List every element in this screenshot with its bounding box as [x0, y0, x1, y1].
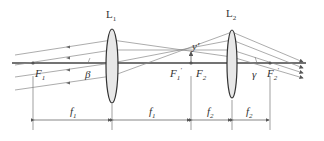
dimension-label-f1-a: f1 [70, 106, 77, 120]
lens-l1 [106, 29, 118, 103]
dimension-label-f1-b: f1 [149, 106, 156, 120]
gamma-label: γ [252, 69, 256, 80]
lens-l1-label: L1 [106, 9, 116, 23]
beta-arc [88, 58, 90, 63]
lens-l2 [227, 30, 237, 98]
f2-point-label: F2 [196, 68, 206, 82]
f2-prime-label: F2′ [267, 67, 279, 82]
f1-point-label: F1 [35, 68, 45, 82]
dimension-label-f2-a: f2 [207, 106, 214, 120]
image-label: y′ [192, 41, 199, 52]
focal-point-f1 [31, 61, 34, 64]
ray-arrows [66, 46, 70, 85]
focal-point-f2p [268, 61, 271, 64]
dimension-label-f2-b: f2 [246, 106, 253, 120]
incoming-rays [15, 40, 112, 90]
f1-prime-label: F1′ [170, 67, 182, 82]
lens-l2-label: L2 [226, 8, 236, 22]
beta-label: β [85, 69, 90, 80]
